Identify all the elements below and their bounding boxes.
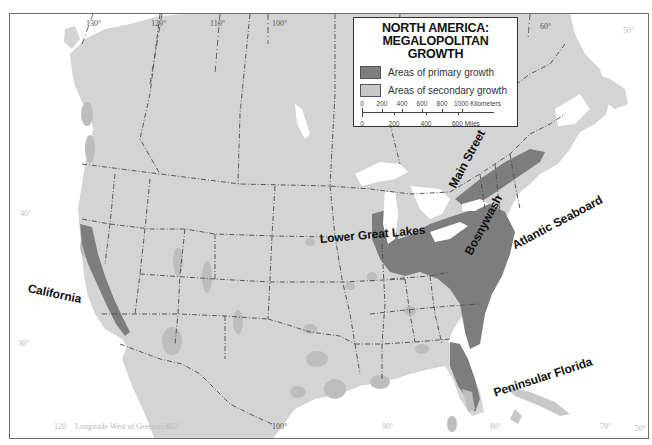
scale-mile-label: 600 Miles xyxy=(452,120,480,127)
longitude-label: 90° xyxy=(382,422,393,431)
longitude-label: 120 xyxy=(54,422,66,431)
legend-title-line2: MEGALOPOLITAN GROWTH xyxy=(360,35,511,61)
scale-mile-label: 200 xyxy=(389,120,400,127)
scale-tick xyxy=(462,109,463,112)
longitude-label: 80° xyxy=(490,422,501,431)
scale-km-label: 1000 Kilometers xyxy=(454,100,501,107)
scale-tick xyxy=(394,112,395,115)
legend-label-primary: Areas of primary growth xyxy=(388,67,494,78)
legend-item-secondary: Areas of secondary growth xyxy=(360,84,511,97)
secondary-growth-swatch xyxy=(360,84,381,97)
longitude-label: 50° xyxy=(623,26,634,35)
scale-bar: 0 200 400 600 800 1000 Kilometers 0 200 … xyxy=(360,100,511,130)
scale-km-label: 400 xyxy=(397,100,408,107)
legend-item-primary: Areas of primary growth xyxy=(360,66,511,79)
latitude-label: 30° xyxy=(18,339,29,348)
legend-label-secondary: Areas of secondary growth xyxy=(388,85,507,96)
longitude-label: 100° xyxy=(272,19,287,28)
scale-km-label: 0 xyxy=(360,100,364,107)
longitude-label: 120° xyxy=(151,19,166,28)
scale-line xyxy=(362,112,494,113)
longitude-label: 100° xyxy=(272,422,287,431)
alaska-panhandle-islands xyxy=(64,26,80,49)
map-frame: 130° 120° 110° 100° 60° 50° 120 Longitud… xyxy=(9,13,649,439)
longitude-label: 70° xyxy=(600,422,611,431)
scale-mile-label: 400 xyxy=(421,120,432,127)
longitude-caption: Longitude West of Greenwich xyxy=(75,422,171,431)
scale-tick xyxy=(402,109,403,112)
longitude-label: 60° xyxy=(540,22,551,31)
longitude-label: 50° xyxy=(635,424,646,433)
scale-tick xyxy=(442,109,443,112)
scale-tick xyxy=(426,112,427,115)
latitude-label: 40° xyxy=(20,209,31,218)
scale-tick xyxy=(362,108,363,117)
scale-km-label: 600 xyxy=(417,100,428,107)
primary-growth-swatch xyxy=(360,66,381,79)
map-legend: NORTH AMERICA: MEGALOPOLITAN GROWTH Area… xyxy=(353,17,518,127)
scale-km-label: 200 xyxy=(377,100,388,107)
bahamas xyxy=(510,409,522,424)
scale-km-label: 800 xyxy=(437,100,448,107)
scale-tick xyxy=(422,109,423,112)
longitude-label: 110° xyxy=(210,19,225,28)
scale-mile-label: 0 xyxy=(360,120,364,127)
longitude-label: 130° xyxy=(86,19,101,28)
scale-tick xyxy=(382,109,383,112)
scale-tick xyxy=(458,112,459,115)
longitude-label: 110° xyxy=(165,422,180,431)
